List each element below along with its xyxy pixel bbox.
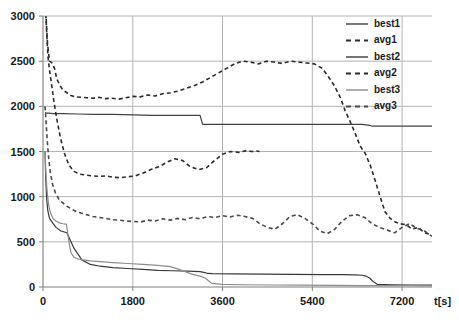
series-line-best1 — [45, 113, 432, 127]
legend-label-best1: best1 — [374, 18, 401, 29]
y-tick-label-500: 500 — [17, 236, 35, 248]
line-chart: 050010001500200025003000 018003600540072… — [0, 0, 459, 322]
x-tick-label-0: 0 — [40, 295, 46, 307]
y-tick-label-1000: 1000 — [11, 191, 35, 203]
legend-label-best3: best3 — [374, 84, 401, 95]
y-tick-label-2500: 2500 — [11, 55, 35, 67]
x-axis-label: t[s] — [434, 295, 451, 307]
y-tick-label-0: 0 — [29, 281, 35, 293]
x-tick-label-7200: 7200 — [390, 295, 414, 307]
y-tick-label-2000: 2000 — [11, 100, 35, 112]
y-axis-ticks: 050010001500200025003000 — [11, 10, 43, 293]
legend-label-avg2: avg2 — [374, 67, 397, 78]
x-axis-ticks: 01800360054007200 — [40, 287, 414, 307]
legend-label-best2: best2 — [374, 51, 401, 62]
y-tick-label-1500: 1500 — [11, 146, 35, 158]
x-tick-label-5400: 5400 — [300, 295, 324, 307]
chart-container: 050010001500200025003000 018003600540072… — [0, 0, 459, 322]
x-tick-label-1800: 1800 — [121, 295, 145, 307]
x-tick-label-3600: 3600 — [210, 295, 234, 307]
y-tick-label-3000: 3000 — [11, 10, 35, 22]
x-axis-label-text: t[s] — [434, 295, 451, 307]
legend-label-avg3: avg3 — [374, 100, 397, 111]
legend-label-avg1: avg1 — [374, 34, 397, 45]
legend: best1avg1best2avg2best3avg3 — [346, 18, 401, 112]
